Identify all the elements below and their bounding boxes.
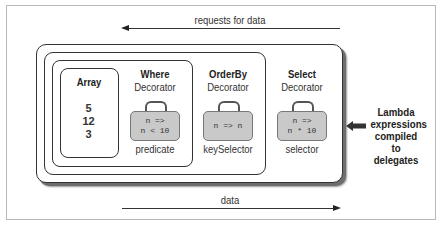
lambda-note-line: Lambda [370, 106, 421, 118]
select-title: Select [272, 68, 332, 80]
select-subtitle: Decorator [272, 81, 332, 93]
briefcase-body: n => n < 10 [130, 111, 180, 141]
array-title: Array [59, 76, 119, 88]
array-value: 3 [60, 128, 117, 140]
array-value: 5 [60, 102, 117, 114]
code-line: n => [145, 116, 164, 126]
orderby-param-label: keySelector [198, 143, 258, 155]
where-title: Where [125, 68, 185, 80]
data-label: data [213, 194, 247, 206]
code-line: n => [292, 116, 311, 126]
code-line: n * 10 [288, 126, 317, 136]
code-line: n => n [214, 121, 243, 131]
array-value: 12 [60, 115, 117, 127]
where-param-label: predicate [125, 143, 185, 155]
orderby-subtitle: Decorator [198, 81, 258, 93]
where-subtitle: Decorator [125, 81, 185, 93]
arrow-right-head-icon [333, 205, 341, 211]
thick-arrow-left-icon [346, 121, 366, 131]
briefcase-body: n => n [203, 111, 253, 141]
requests-arrow-line [128, 28, 340, 29]
code-line: n < 10 [141, 126, 170, 136]
briefcase-body: n => n * 10 [277, 111, 327, 141]
orderby-keyselector-briefcase-icon: n => n [203, 101, 253, 141]
data-arrow-line [122, 208, 334, 209]
select-selector-briefcase-icon: n => n * 10 [277, 101, 327, 141]
lambda-note: Lambda expressions compiled to delegates [370, 106, 421, 166]
requests-for-data-label: requests for data [187, 14, 273, 26]
lambda-note-line: compiled to [370, 130, 421, 154]
lambda-note-line: expressions [370, 118, 421, 130]
select-param-label: selector [272, 143, 332, 155]
arrow-left-head-icon [121, 25, 129, 31]
where-predicate-briefcase-icon: n => n < 10 [130, 101, 180, 141]
lambda-note-line: delegates [370, 154, 421, 166]
orderby-title: OrderBy [198, 68, 258, 80]
